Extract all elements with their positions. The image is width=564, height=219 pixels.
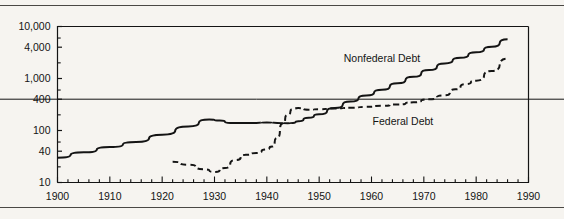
series-line-nonfederal-debt bbox=[58, 39, 508, 158]
x-axis: 1900191019201930194019501960197019801990 bbox=[46, 177, 541, 202]
plot-frame bbox=[58, 27, 529, 183]
y-axis-tick-label: 10 bbox=[39, 176, 51, 188]
series-line-federal-debt bbox=[173, 59, 508, 172]
data-series bbox=[58, 39, 508, 172]
x-axis-tick-label: 1960 bbox=[360, 190, 384, 202]
y-axis-tick-label: 40 bbox=[39, 145, 51, 157]
y-axis-tick-label: 10,000 bbox=[18, 20, 50, 32]
x-axis-tick-label: 1910 bbox=[98, 190, 122, 202]
y-axis: 10401004001,0004,00010,000 bbox=[18, 20, 62, 188]
x-axis-tick-label: 1970 bbox=[412, 190, 436, 202]
y-axis-tick-label: 1,000 bbox=[24, 72, 50, 84]
debt-chart-figure: 10401004001,0004,00010,000 1900191019201… bbox=[0, 0, 564, 219]
chart-canvas: 10401004001,0004,00010,000 1900191019201… bbox=[0, 0, 564, 219]
y-axis-tick-label: 4,000 bbox=[24, 41, 50, 53]
x-axis-tick-label: 1990 bbox=[517, 190, 541, 202]
x-axis-tick-label: 1980 bbox=[464, 190, 488, 202]
series-label-federal-debt: Federal Debt bbox=[373, 115, 434, 127]
x-axis-tick-label: 1950 bbox=[307, 190, 331, 202]
y-axis-tick-label: 100 bbox=[33, 124, 51, 136]
x-axis-tick-label: 1900 bbox=[46, 190, 70, 202]
x-axis-tick-label: 1920 bbox=[150, 190, 174, 202]
x-axis-tick-label: 1930 bbox=[203, 190, 227, 202]
series-label-nonfederal-debt: Nonfederal Debt bbox=[344, 52, 421, 64]
x-axis-tick-label: 1940 bbox=[255, 190, 279, 202]
